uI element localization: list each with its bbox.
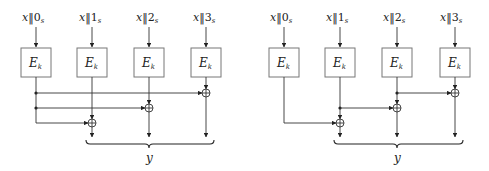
diagram-canvas: x‖0s x‖1s x‖2s x‖3s Ek Ek Ek Ek [0,0,489,171]
feedback-wires [34,77,202,123]
output-brace [334,140,463,148]
input-label-2: x‖2s [383,11,406,25]
output-label-y: y [393,151,401,165]
xor-icon [88,119,96,127]
cipher-block-0: Ek [21,48,51,77]
cipher-block-3: Ek [191,48,221,77]
input-label-3: x‖3s [440,11,463,25]
left-diagram: x‖0s x‖1s x‖2s x‖3s Ek Ek Ek Ek [21,11,221,165]
xor-icon [393,104,401,112]
right-diagram: x‖0s x‖1s x‖2s x‖3s Ek Ek Ek Ek [269,11,470,165]
cipher-block-2: Ek [382,48,412,77]
input-label-1: x‖1s [79,11,102,25]
input-label-3: x‖3s [193,11,216,25]
cipher-block-0: Ek [269,48,299,77]
cipher-block-1: Ek [325,48,355,77]
output-label-y: y [145,151,153,165]
xor-icon [145,104,153,112]
input-label-0: x‖0s [270,11,293,25]
cipher-block-3: Ek [440,48,470,77]
input-label-0: x‖0s [22,11,45,25]
xor-icon [202,89,210,97]
input-label-1: x‖1s [326,11,349,25]
output-brace [86,140,214,148]
cipher-block-2: Ek [134,48,164,77]
xor-icon [336,119,344,127]
cipher-block-1: Ek [77,48,107,77]
input-label-2: x‖2s [136,11,159,25]
chain-wires [284,77,455,123]
xor-icon [451,89,459,97]
